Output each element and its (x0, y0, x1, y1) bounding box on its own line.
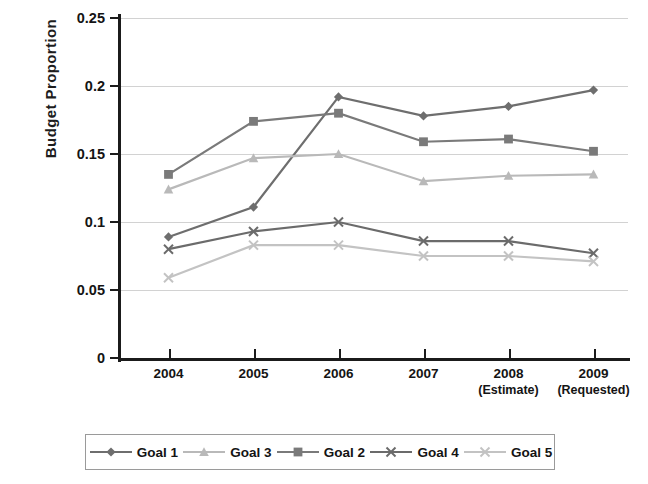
legend-swatch-diamond-icon (88, 444, 134, 460)
series-line (169, 154, 594, 189)
series-goal-1 (164, 85, 598, 241)
legend-label: Goal 2 (324, 445, 365, 460)
data-point-square (419, 137, 428, 146)
legend-swatch-triangle-icon (181, 444, 227, 460)
data-point-diamond (106, 447, 115, 456)
series-line (169, 90, 594, 237)
legend-label: Goal 5 (511, 445, 552, 460)
series-goal-3 (164, 149, 599, 193)
legend-item-goal-5[interactable]: Goal 5 (462, 444, 552, 460)
series-layer (118, 18, 628, 358)
series-goal-5 (164, 241, 598, 283)
data-point-diamond (164, 232, 173, 241)
x-axis-line (118, 358, 630, 361)
legend: Goal 1Goal 3Goal 2Goal 4Goal 5 (85, 434, 555, 470)
x-axis-tick-sublabel: (Requested) (557, 383, 629, 397)
data-point-diamond (419, 111, 428, 120)
data-point-diamond (504, 102, 513, 111)
x-axis-tick-label: 2007 (408, 366, 438, 381)
plot-area: 00.050.10.150.20.25 20042005200620072008… (118, 18, 628, 358)
data-point-square (504, 135, 513, 144)
legend-label: Goal 1 (137, 445, 178, 460)
legend-swatch-cross-icon (368, 444, 414, 460)
y-axis-tick-label: 0.15 (77, 146, 105, 162)
x-axis-tick-sublabel: (Estimate) (478, 383, 538, 397)
series-line (169, 245, 594, 278)
x-axis-tick-label: 2004 (153, 366, 183, 381)
data-point-square (334, 109, 343, 118)
data-point-diamond (589, 85, 598, 94)
legend-item-goal-4[interactable]: Goal 4 (368, 444, 458, 460)
y-axis-title: Budget Proportion (42, 0, 59, 199)
x-axis-tick-label: 2008(Estimate) (478, 366, 538, 397)
y-axis-tick-label: 0.2 (85, 78, 105, 94)
y-axis-tick-label: 0.05 (77, 282, 105, 298)
legend-swatch-cross-icon (462, 444, 508, 460)
series-goal-4 (164, 218, 598, 258)
data-point-square (164, 170, 173, 179)
y-axis-tick-label: 0.1 (85, 214, 105, 230)
y-axis-tick-label: 0 (97, 350, 105, 366)
legend-item-goal-1[interactable]: Goal 1 (88, 444, 178, 460)
data-point-square (249, 117, 258, 126)
data-point-cross (164, 273, 173, 282)
x-axis-tick-label: 2009(Requested) (557, 366, 629, 397)
line-chart: Budget Proportion 00.050.10.150.20.25 20… (0, 0, 648, 484)
x-axis-tick-label: 2006 (323, 366, 353, 381)
legend-item-goal-2[interactable]: Goal 2 (275, 444, 365, 460)
legend-label: Goal 4 (417, 445, 458, 460)
data-point-square (293, 448, 302, 457)
legend-swatch-square-icon (275, 444, 321, 460)
data-point-square (589, 147, 598, 156)
y-axis-tick-label: 0.25 (77, 10, 105, 26)
series-line (169, 222, 594, 253)
x-axis-tick-label: 2005 (238, 366, 268, 381)
legend-item-goal-3[interactable]: Goal 3 (181, 444, 271, 460)
legend-label: Goal 3 (230, 445, 271, 460)
